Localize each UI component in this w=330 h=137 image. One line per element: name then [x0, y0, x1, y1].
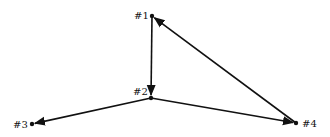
node-label-2: #2	[133, 86, 148, 97]
edge-2-to-3	[35, 98, 151, 123]
nodes: #1#2#3#4	[13, 10, 317, 130]
edge-2-to-4	[151, 98, 293, 122]
directed-graph: #1#2#3#4	[0, 0, 330, 137]
node-3	[30, 122, 34, 126]
node-label-4: #4	[302, 118, 317, 129]
edge-4-to-1	[154, 18, 296, 123]
edge-1-to-2	[151, 16, 152, 95]
node-4	[294, 121, 298, 125]
node-label-3: #3	[13, 119, 28, 130]
edges	[35, 16, 296, 123]
node-2	[149, 96, 153, 100]
node-label-1: #1	[134, 10, 149, 21]
node-1	[150, 14, 154, 18]
